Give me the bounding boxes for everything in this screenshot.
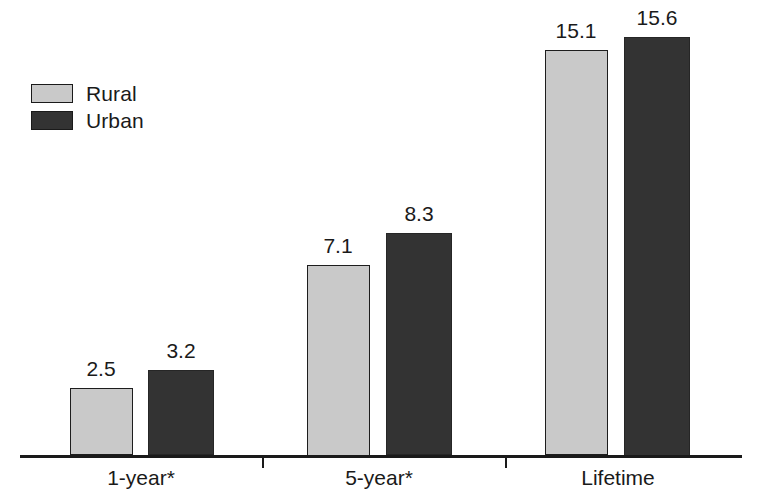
bar-value-rural-1-year: 2.5 (86, 358, 115, 379)
bar-value-rural-5-year: 7.1 (323, 235, 352, 256)
bar-urban-5-year (386, 233, 452, 456)
bar-urban-1-year (148, 370, 214, 456)
x-axis-label-5-year: 5-year* (345, 466, 413, 490)
bar-value-urban-5-year: 8.3 (404, 203, 433, 224)
bar-value-rural-lifetime: 15.1 (556, 20, 597, 41)
x-axis-label-1-year: 1-year* (107, 466, 175, 490)
x-axis-label-lifetime: Lifetime (581, 466, 655, 490)
bar-chart: Rural Urban 2.5 3.2 7.1 8.3 15.1 15.6 1-… (0, 0, 758, 499)
bar-value-urban-lifetime: 15.6 (637, 7, 678, 28)
x-axis-line (20, 455, 742, 458)
plot-area: 2.5 3.2 7.1 8.3 15.1 15.6 (0, 0, 758, 499)
bar-rural-1-year (70, 388, 133, 455)
bar-rural-5-year (307, 265, 370, 456)
x-axis-tick-1 (262, 457, 264, 468)
bar-rural-lifetime (545, 50, 608, 455)
x-axis-tick-2 (505, 457, 507, 468)
bar-value-urban-1-year: 3.2 (166, 340, 195, 361)
bar-urban-lifetime (624, 37, 690, 456)
